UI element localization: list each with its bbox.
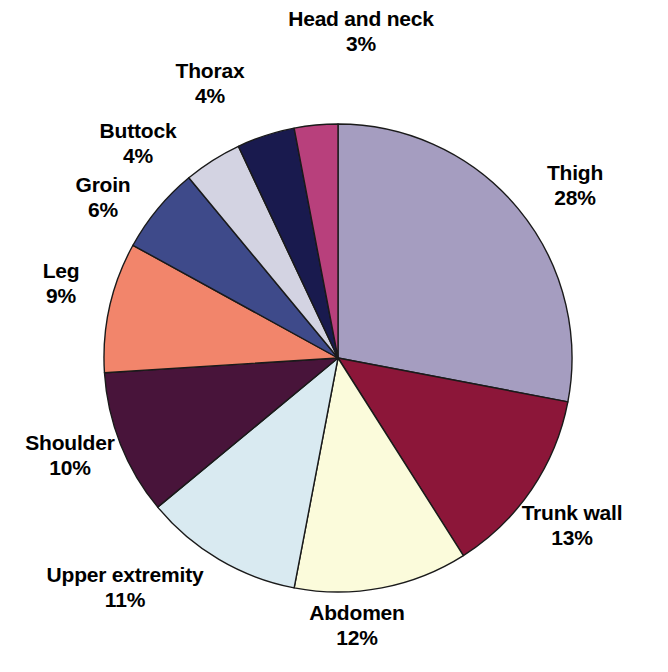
pie-label-name: Trunk wall	[482, 500, 662, 525]
pie-label-percent: 28%	[500, 185, 650, 210]
pie-label-thorax: Thorax4%	[120, 58, 300, 108]
pie-label-name: Thigh	[500, 160, 650, 185]
pie-label-name: Abdomen	[272, 600, 442, 625]
pie-label-percent: 3%	[246, 31, 476, 56]
pie-label-percent: 13%	[482, 525, 662, 550]
pie-label-leg: Leg9%	[6, 258, 116, 308]
pie-chart-figure: Head and neck3%Thorax4%Buttock4%Groin6%L…	[0, 0, 668, 672]
pie-label-abdomen: Abdomen12%	[272, 600, 442, 650]
pie-label-shoulder: Shoulder10%	[0, 430, 140, 480]
pie-label-percent: 9%	[6, 283, 116, 308]
pie-label-name: Shoulder	[0, 430, 140, 455]
pie-label-head-and-neck: Head and neck3%	[246, 6, 476, 56]
pie-label-name: Buttock	[48, 118, 228, 143]
pie-label-percent: 11%	[0, 587, 250, 612]
pie-label-name: Upper extremity	[0, 562, 250, 587]
pie-label-groin: Groin6%	[28, 172, 178, 222]
pie-label-buttock: Buttock4%	[48, 118, 228, 168]
pie-label-name: Leg	[6, 258, 116, 283]
pie-label-name: Head and neck	[246, 6, 476, 31]
pie-label-trunk-wall: Trunk wall13%	[482, 500, 662, 550]
pie-label-name: Groin	[28, 172, 178, 197]
pie-label-percent: 4%	[120, 83, 300, 108]
pie-label-percent: 12%	[272, 625, 442, 650]
pie-label-name: Thorax	[120, 58, 300, 83]
pie-label-percent: 6%	[28, 197, 178, 222]
pie-label-upper-extremity: Upper extremity11%	[0, 562, 250, 612]
pie-label-percent: 10%	[0, 455, 140, 480]
pie-label-thigh: Thigh28%	[500, 160, 650, 210]
pie-label-percent: 4%	[48, 143, 228, 168]
